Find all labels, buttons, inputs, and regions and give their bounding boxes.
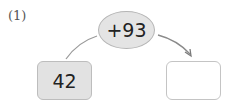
start-value-box: 42 <box>37 61 92 100</box>
operation-oval: +93 <box>98 11 155 49</box>
output-arrow-line <box>158 35 190 54</box>
start-value-text: 42 <box>52 70 76 92</box>
operation-text: +93 <box>106 19 146 41</box>
input-connector-line <box>66 36 97 59</box>
answer-box[interactable] <box>166 61 221 100</box>
